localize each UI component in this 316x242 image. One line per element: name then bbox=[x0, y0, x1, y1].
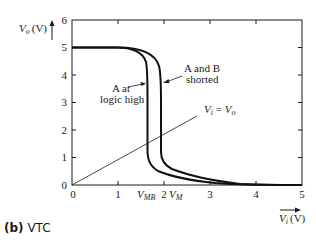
y-axis-label: Vo(V) bbox=[19, 22, 47, 36]
unity-gain-line bbox=[72, 116, 197, 185]
vmb-label: VMB bbox=[137, 188, 155, 202]
svg-text:3: 3 bbox=[62, 96, 68, 108]
x-axis-label: Vi(V) bbox=[279, 212, 306, 226]
svg-text:6: 6 bbox=[62, 14, 68, 26]
caption-label: (b) bbox=[4, 221, 24, 235]
annotation-vi-equals-vo: Vi = Vo bbox=[204, 103, 235, 117]
annotation-a-logic-high-line2: logic high bbox=[100, 93, 145, 105]
y-tick-labels: 0 1 2 3 4 5 6 bbox=[62, 14, 68, 191]
svg-text:1: 1 bbox=[115, 188, 121, 200]
svg-text:2: 2 bbox=[161, 188, 167, 200]
caption-text: VTC bbox=[27, 221, 50, 235]
svg-text:4: 4 bbox=[62, 69, 68, 81]
svg-text:5: 5 bbox=[62, 41, 68, 53]
svg-text:0: 0 bbox=[62, 179, 68, 191]
annotation-arrow-icon bbox=[128, 82, 146, 87]
vm-label: VM bbox=[169, 188, 184, 202]
annotation-ab-shorted-line2: shorted bbox=[186, 73, 219, 85]
svg-text:4: 4 bbox=[253, 188, 259, 200]
vtc-chart: 0 1 2 3 4 5 6 0 1 2 3 4 5 VMB VM Vo(V) V… bbox=[0, 0, 316, 242]
y-axis-arrow-icon bbox=[50, 20, 55, 40]
svg-text:3: 3 bbox=[207, 188, 213, 200]
svg-text:1: 1 bbox=[62, 151, 68, 163]
figure-caption: (b) VTC bbox=[4, 221, 51, 235]
annotation-arrow-icon bbox=[163, 76, 182, 83]
svg-text:2: 2 bbox=[62, 124, 68, 136]
x-tick-labels: 0 1 2 3 4 5 bbox=[70, 188, 305, 200]
svg-text:5: 5 bbox=[299, 188, 305, 200]
svg-text:0: 0 bbox=[70, 188, 76, 200]
